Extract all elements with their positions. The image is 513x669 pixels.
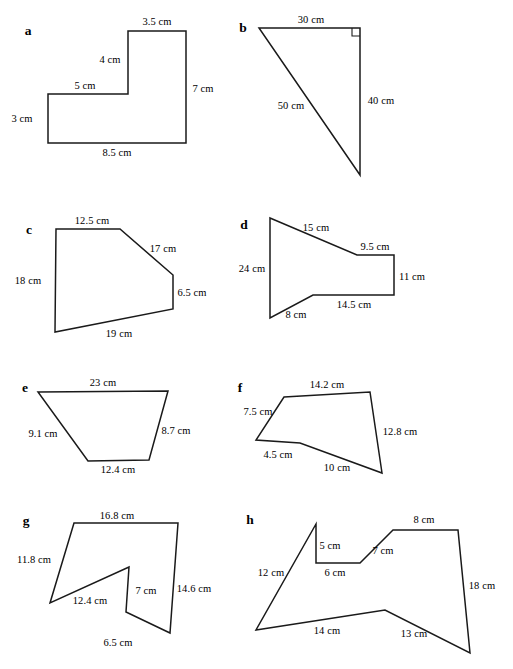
dimension-label-f-3: 12.8 cm bbox=[383, 427, 418, 438]
figure-a bbox=[48, 31, 186, 143]
shape-outline-d bbox=[270, 218, 394, 318]
dimension-label-b-3: 50 cm bbox=[278, 101, 304, 112]
dimension-label-h-1: 8 cm bbox=[413, 515, 434, 526]
figure-b bbox=[259, 28, 360, 175]
dimension-label-h-8: 13 cm bbox=[401, 629, 427, 640]
dimension-label-c-4: 6.5 cm bbox=[177, 288, 206, 299]
dimension-label-e-2: 9.1 cm bbox=[28, 429, 57, 440]
dimension-label-a-6: 8.5 cm bbox=[102, 148, 131, 159]
figure-letter-g: g bbox=[23, 514, 30, 528]
dimension-label-h-7: 14 cm bbox=[314, 626, 340, 637]
dimension-label-g-3: 14.6 cm bbox=[177, 584, 212, 595]
dimension-label-f-5: 10 cm bbox=[324, 463, 350, 474]
shape-outline-e bbox=[38, 391, 168, 461]
shape-outline-b bbox=[259, 28, 360, 175]
dimension-label-d-2: 9.5 cm bbox=[360, 242, 389, 253]
dimension-label-a-5: 3 cm bbox=[11, 114, 32, 125]
figure-f bbox=[256, 392, 382, 473]
dimension-label-g-1: 16.8 cm bbox=[100, 511, 135, 522]
figure-e bbox=[38, 391, 168, 461]
figure-letter-b: b bbox=[239, 21, 247, 35]
dimension-label-f-4: 4.5 cm bbox=[263, 450, 292, 461]
dimension-label-e-3: 8.7 cm bbox=[161, 426, 190, 437]
shape-outline-g bbox=[50, 523, 178, 633]
worksheet-page: a3.5 cm4 cm7 cm5 cm3 cm8.5 cmb30 cm40 cm… bbox=[0, 0, 513, 669]
dimension-label-g-2: 11.8 cm bbox=[17, 555, 51, 566]
figure-letter-c: c bbox=[26, 223, 32, 237]
dimension-label-d-6: 8 cm bbox=[285, 310, 306, 321]
figure-letter-e: e bbox=[22, 381, 28, 395]
dimension-label-f-1: 14.2 cm bbox=[310, 380, 345, 391]
dimension-label-h-3: 7 cm bbox=[372, 546, 393, 557]
figure-letter-h: h bbox=[246, 513, 254, 527]
dimension-label-g-6: 6.5 cm bbox=[103, 638, 132, 649]
dimension-label-e-1: 23 cm bbox=[90, 378, 116, 389]
dimension-label-c-3: 18 cm bbox=[15, 276, 41, 287]
dimension-label-b-1: 30 cm bbox=[298, 15, 324, 26]
figure-h bbox=[256, 524, 470, 653]
dimension-label-h-5: 12 cm bbox=[258, 568, 284, 579]
dimension-label-b-2: 40 cm bbox=[368, 96, 394, 107]
right-angle-marker-b bbox=[352, 28, 360, 36]
dimension-label-a-4: 5 cm bbox=[74, 81, 95, 92]
dimension-label-h-4: 6 cm bbox=[324, 568, 345, 579]
figure-letter-f: f bbox=[238, 381, 243, 395]
dimension-label-a-3: 7 cm bbox=[192, 84, 213, 95]
figure-letter-d: d bbox=[240, 218, 248, 232]
dimension-label-d-1: 15 cm bbox=[303, 223, 329, 234]
dimension-label-c-5: 19 cm bbox=[106, 329, 132, 340]
dimension-label-d-3: 24 cm bbox=[239, 264, 265, 275]
shape-outline-f bbox=[256, 392, 382, 473]
dimension-label-c-2: 17 cm bbox=[150, 244, 176, 255]
dimension-label-d-4: 11 cm bbox=[399, 272, 425, 283]
dimension-label-g-5: 12.4 cm bbox=[73, 596, 108, 607]
shape-outline-a bbox=[48, 31, 186, 143]
dimension-label-g-4: 7 cm bbox=[135, 586, 156, 597]
dimension-label-d-5: 14.5 cm bbox=[337, 300, 372, 311]
dimension-label-a-2: 4 cm bbox=[99, 55, 120, 66]
dimension-label-a-1: 3.5 cm bbox=[142, 17, 171, 28]
dimension-label-h-6: 18 cm bbox=[469, 581, 495, 592]
dimension-label-f-2: 7.5 cm bbox=[243, 407, 272, 418]
shape-outline-h bbox=[256, 524, 470, 653]
figure-letter-a: a bbox=[25, 24, 32, 38]
dimension-label-h-2: 5 cm bbox=[319, 541, 340, 552]
figures-canvas bbox=[0, 0, 513, 669]
figure-d bbox=[270, 218, 394, 318]
figure-g bbox=[50, 523, 178, 633]
dimension-label-c-1: 12.5 cm bbox=[75, 216, 110, 227]
dimension-label-e-4: 12.4 cm bbox=[101, 465, 136, 476]
